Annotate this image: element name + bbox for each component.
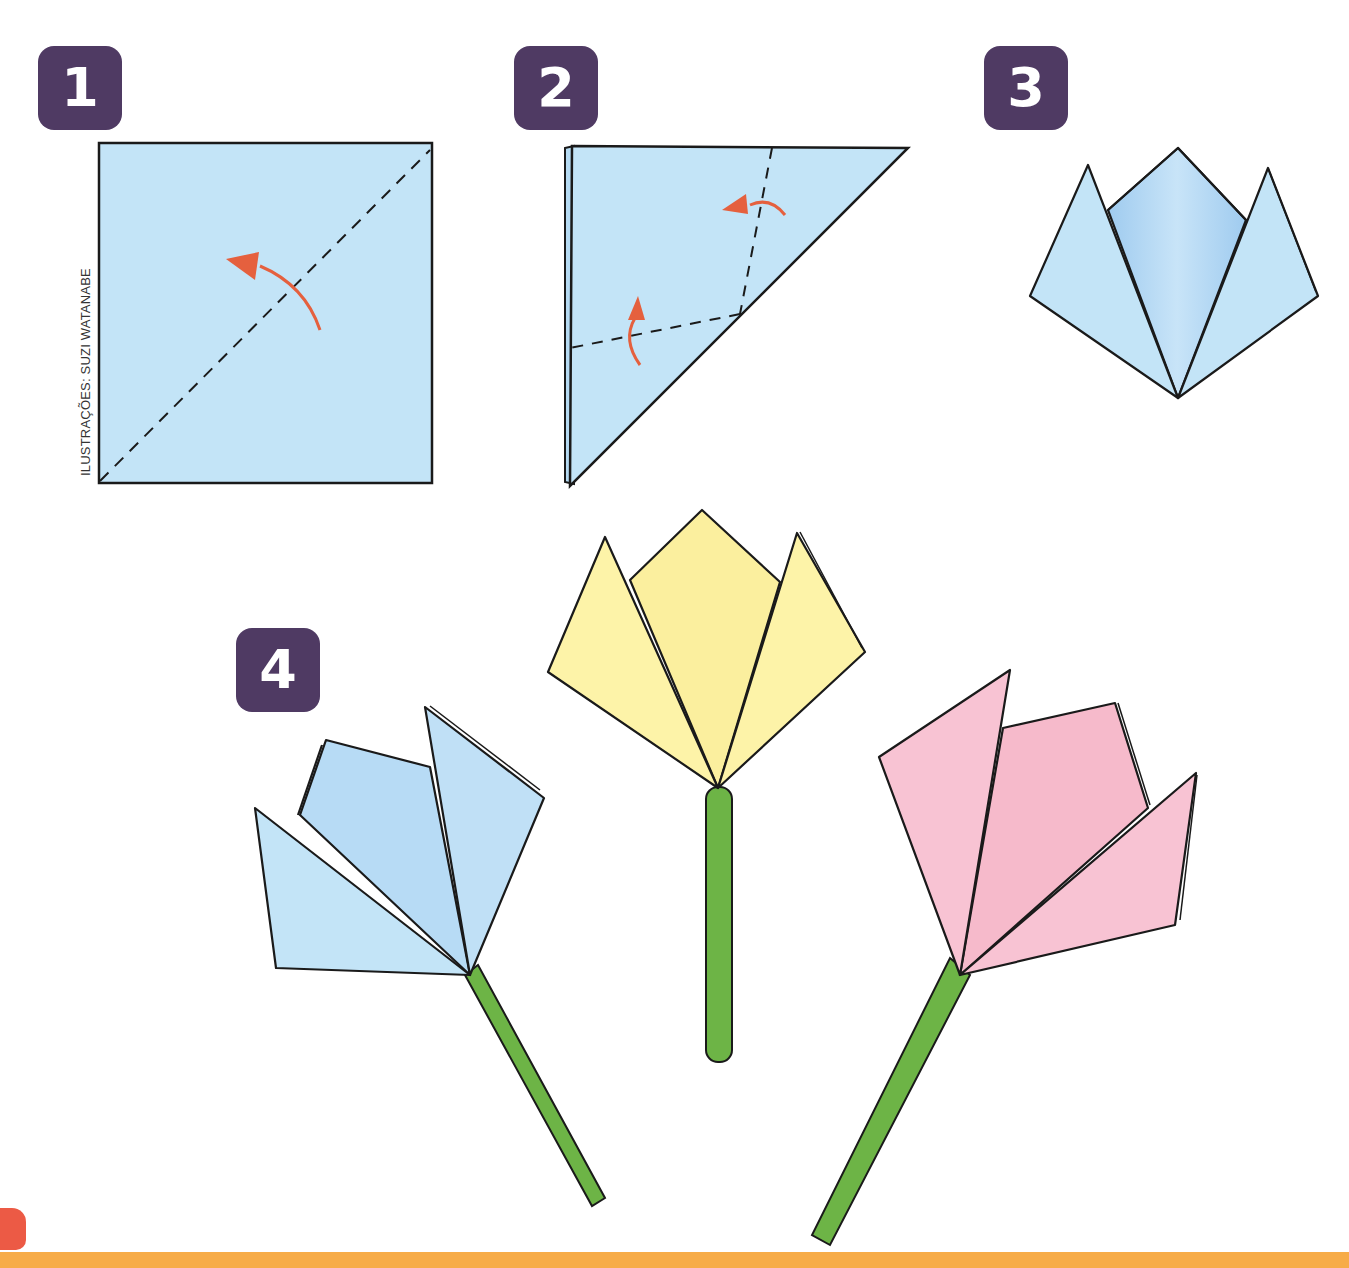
tulip-yellow [548,510,865,1062]
tulip-pink [812,670,1197,1245]
stem [465,965,605,1206]
step-3-folded-head [1030,148,1318,398]
step-1-square-diagram [99,143,432,483]
stem [706,787,732,1062]
footer-decoration [0,1208,26,1250]
footer-band [0,1252,1349,1268]
stem [812,958,970,1245]
tulip-blue [255,706,605,1206]
step-2-triangle-diagram [565,146,908,486]
